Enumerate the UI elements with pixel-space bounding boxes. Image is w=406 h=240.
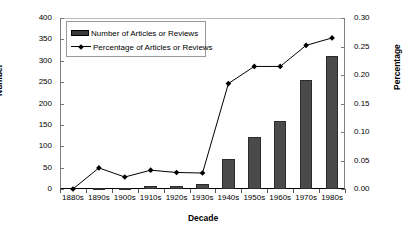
y-axis-left-tick-mark xyxy=(60,39,64,40)
y-axis-right-tick-mark xyxy=(341,75,345,76)
bar-1900s xyxy=(119,188,131,190)
y-axis-right-tick-mark xyxy=(341,18,345,19)
y-axis-left-tick-mark xyxy=(60,18,64,19)
bar-1930s xyxy=(196,184,208,189)
x-axis-tick-mark xyxy=(293,189,294,193)
x-axis-tick-label: 1920s xyxy=(164,193,190,202)
y-axis-right-tick-mark xyxy=(341,47,345,48)
y-axis-left-tick-mark xyxy=(60,82,64,83)
y-axis-left-tick-mark xyxy=(60,104,64,105)
x-axis-tick-label: 1970s xyxy=(293,193,319,202)
y-axis-right-tick-mark xyxy=(341,161,345,162)
x-axis-tick-label: 1980s xyxy=(319,193,345,202)
x-axis-tick-label: 1910s xyxy=(138,193,164,202)
y-axis-right-tick-label: 0.05 xyxy=(354,157,394,165)
y-axis-right-tick-label: 0.15 xyxy=(354,100,394,108)
y-axis-right-tick-label: 0.10 xyxy=(354,128,394,136)
x-axis-tick-label: 1940s xyxy=(215,193,241,202)
x-axis-tick-label: 1950s xyxy=(241,193,267,202)
x-axis-tick-mark xyxy=(190,189,191,193)
y-axis-left-tick-label: 250 xyxy=(0,78,52,86)
legend-label-percentage: Percentage of Articles or Reviews xyxy=(93,43,213,52)
y-axis-left-tick-label: 0 xyxy=(0,185,52,193)
legend-item-number: Number of Articles or Reviews xyxy=(71,26,201,40)
y-axis-right-tick-mark xyxy=(341,104,345,105)
x-axis-tick-mark xyxy=(267,189,268,193)
y-axis-right-title: Percentage xyxy=(392,44,402,90)
bar-1920s xyxy=(170,186,182,189)
y-axis-left-tick-label: 100 xyxy=(0,142,52,150)
y-axis-left-tick-label: 350 xyxy=(0,35,52,43)
y-axis-right-tick-label: 0.20 xyxy=(354,71,394,79)
bar-1910s xyxy=(144,186,156,189)
y-axis-right-tick-label: 0.00 xyxy=(354,185,394,193)
bar-1890s xyxy=(93,188,105,190)
x-axis-tick-mark xyxy=(60,189,61,193)
y-axis-left-tick-label: 300 xyxy=(0,57,52,65)
x-axis-tick-mark xyxy=(241,189,242,193)
bar-1940s xyxy=(222,159,234,189)
x-axis-tick-label: 1960s xyxy=(267,193,293,202)
x-axis-title: Decade xyxy=(0,213,406,223)
bar-swatch-icon xyxy=(71,30,89,36)
bar-1980s xyxy=(326,56,338,189)
y-axis-left-tick-mark xyxy=(60,146,64,147)
chart-legend: Number of Articles or Reviews Percentage… xyxy=(66,21,206,57)
y-axis-left-tick-label: 400 xyxy=(0,14,52,22)
x-axis-tick-label: 1930s xyxy=(190,193,216,202)
y-axis-left-tick-mark xyxy=(60,125,64,126)
x-axis-tick-mark xyxy=(112,189,113,193)
y-axis-right-tick-label: 0.30 xyxy=(354,14,394,22)
x-axis-tick-mark xyxy=(345,189,346,193)
y-axis-right-tick-label: 0.25 xyxy=(354,43,394,51)
y-axis-left-tick-label: 200 xyxy=(0,100,52,108)
y-axis-left-tick-label: 50 xyxy=(0,164,52,172)
bar-1970s xyxy=(300,80,312,189)
x-axis-tick-mark xyxy=(86,189,87,193)
y-axis-left-tick-label: 150 xyxy=(0,121,52,129)
x-axis-tick-mark xyxy=(319,189,320,193)
line-swatch-icon xyxy=(71,43,91,51)
y-axis-right-tick-mark xyxy=(341,132,345,133)
bar-1960s xyxy=(274,121,286,189)
x-axis-tick-mark xyxy=(215,189,216,193)
bar-1950s xyxy=(248,137,260,189)
y-axis-left-tick-mark xyxy=(60,168,64,169)
chart-figure: Number Percentage Decade 050100150200250… xyxy=(0,0,406,240)
x-axis-tick-mark xyxy=(138,189,139,193)
y-axis-left-tick-mark xyxy=(60,61,64,62)
legend-label-number: Number of Articles or Reviews xyxy=(91,29,198,38)
x-axis-tick-mark xyxy=(164,189,165,193)
legend-item-percentage: Percentage of Articles or Reviews xyxy=(71,40,201,54)
x-axis-tick-label: 1880s xyxy=(60,193,86,202)
x-axis-tick-label: 1900s xyxy=(112,193,138,202)
x-axis-tick-label: 1890s xyxy=(86,193,112,202)
